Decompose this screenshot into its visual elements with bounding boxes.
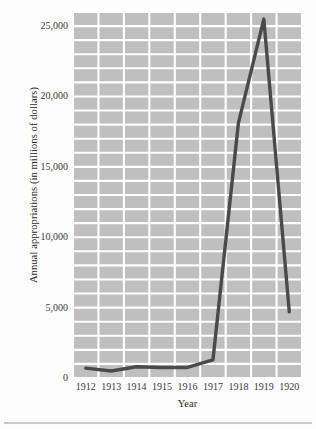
y-axis-tick-labels: 05,00010,00015,00020,00025,000 xyxy=(20,0,68,429)
y-tick-label: 0 xyxy=(22,373,68,383)
line-chart-figure: Annual appropriations (in millions of do… xyxy=(0,0,316,429)
plot-area xyxy=(73,12,302,378)
y-tick-label: 5,000 xyxy=(22,303,68,313)
y-tick-label: 15,000 xyxy=(22,162,68,172)
page-bottom-rule xyxy=(4,422,312,424)
x-axis-title: Year xyxy=(73,398,302,410)
data-series-line xyxy=(73,12,302,378)
x-axis-tick-labels: 191219131914191519161917191819191920 xyxy=(73,381,302,395)
y-tick-label: 20,000 xyxy=(22,91,68,101)
x-tick-label: 1920 xyxy=(272,381,306,393)
y-tick-label: 25,000 xyxy=(22,21,68,31)
y-tick-label: 10,000 xyxy=(22,232,68,242)
